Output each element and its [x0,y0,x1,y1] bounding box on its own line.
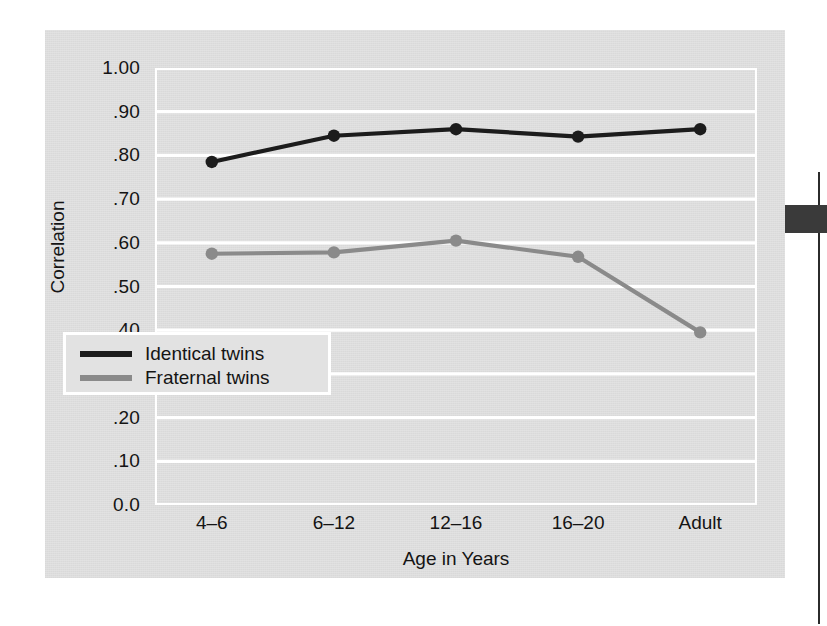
x-axis-title: Age in Years [155,548,757,570]
y-axis-tick-label: .70 [113,188,140,210]
y-axis-tick-label: .50 [113,276,140,298]
legend-label-fraternal-twins: Fraternal twins [145,367,270,389]
x-axis-tick-label: 12–16 [430,512,483,534]
data-point [450,234,462,246]
chart-svg [155,68,757,505]
legend-label-identical-twins: Identical twins [145,343,264,365]
y-axis-tick-label: .60 [113,232,140,254]
data-point [694,326,706,338]
data-point [572,130,584,142]
plot-area [155,68,757,505]
legend-swatch-identical-twins [80,351,132,357]
y-axis-tick-label: .20 [113,407,140,429]
page-edge-rule [818,172,820,624]
data-point [450,123,462,135]
legend-item-identical-twins: Identical twins [80,343,264,365]
x-axis-tick-label: 4–6 [196,512,228,534]
x-axis-tick-label: Adult [679,512,722,534]
data-point [572,251,584,263]
y-axis-tick-label: .10 [113,450,140,472]
data-point [328,130,340,142]
x-axis-tick-label: 16–20 [552,512,605,534]
legend-item-fraternal-twins: Fraternal twins [80,367,270,389]
page-edge-tab-marker [785,205,827,233]
x-axis-tick-label: 6–12 [313,512,355,534]
y-axis-tick-label: .90 [113,101,140,123]
chart-legend: Identical twins Fraternal twins [63,332,331,395]
x-axis-tick-labels: 4–66–1212–1616–20Adult [155,512,757,542]
y-axis-tick-label: 0.0 [113,494,140,516]
y-axis-tick-labels: 1.00.90.80.70.60.50.40.30.20.100.0 [60,68,148,505]
data-point [328,246,340,258]
figure-container: Correlation 1.00.90.80.70.60.50.40.30.20… [0,0,827,626]
data-point [206,156,218,168]
legend-swatch-fraternal-twins [80,375,132,381]
y-axis-tick-label: 1.00 [102,57,140,79]
data-point [206,248,218,260]
y-axis-tick-label: .80 [113,144,140,166]
data-point [694,123,706,135]
